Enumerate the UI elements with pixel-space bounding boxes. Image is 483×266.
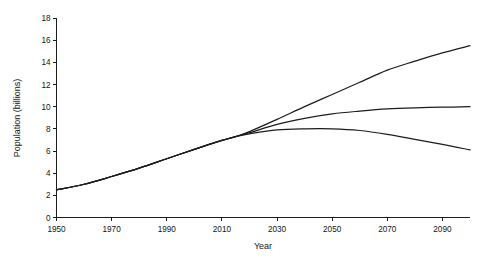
x-tick-label: 1950 [47, 225, 66, 234]
series-medium-variant [57, 107, 471, 190]
y-axis-title: Population (billions) [12, 79, 22, 158]
x-tick-label: 2070 [378, 225, 397, 234]
x-axis-title: Year [254, 241, 272, 251]
x-tick-label: 2010 [213, 225, 232, 234]
y-tick-label: 10 [41, 103, 51, 112]
y-tick-label: 2 [46, 191, 51, 200]
series-high-variant [57, 46, 471, 190]
x-tick-label: 1970 [103, 225, 122, 234]
y-tick-label: 18 [41, 14, 51, 23]
axis-spines [57, 18, 471, 218]
ticks-group [53, 18, 442, 221]
y-tick-label: 12 [41, 81, 51, 90]
tick-labels-group: 0246810121416181950197019902010203020502… [41, 14, 452, 234]
y-tick-label: 0 [46, 214, 51, 223]
axes-group [57, 18, 471, 218]
y-tick-label: 16 [41, 36, 51, 45]
series-low-variant [57, 129, 471, 190]
x-tick-label: 2030 [268, 225, 287, 234]
y-tick-label: 6 [46, 147, 51, 156]
x-tick-label: 2050 [323, 225, 342, 234]
y-tick-label: 4 [46, 169, 51, 178]
x-tick-label: 2090 [433, 225, 452, 234]
y-tick-label: 8 [46, 125, 51, 134]
line-chart: 0246810121416181950197019902010203020502… [0, 0, 483, 266]
population-projection-figure: 0246810121416181950197019902010203020502… [0, 0, 483, 266]
series-group [57, 46, 471, 190]
y-tick-label: 14 [41, 58, 51, 67]
x-tick-label: 1990 [158, 225, 177, 234]
